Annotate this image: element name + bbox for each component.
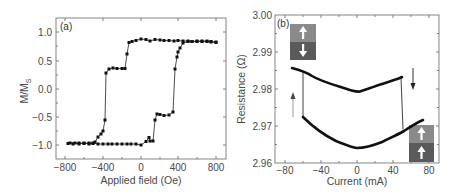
- panel-a-y-axis-title: M/MS: [18, 78, 32, 103]
- panel-b-x-axis-title: Current (mA): [327, 175, 388, 187]
- panel-a-y-ticks: [56, 32, 226, 145]
- panel-a-x-axis-title: Applied field (Oe): [100, 174, 181, 186]
- panel-b-ytick-label: 2.99: [253, 47, 273, 58]
- hysteresis-descending-line: [70, 39, 216, 143]
- panel-a-ytick-label: −1.0: [32, 140, 52, 151]
- panel-b-ytick-label: 2.98: [253, 84, 273, 95]
- panel-a-xtick-label: −800: [54, 162, 77, 173]
- panel-b: 3.00 2.99 2.98 2.97 2.96 −80 −40 0 40 80…: [235, 10, 439, 187]
- arrow-up-icon: [291, 92, 296, 117]
- arrow-down-icon: [411, 68, 416, 90]
- panel-b-ytick-label: 2.97: [253, 121, 273, 132]
- panel-b-xtick-label: −80: [277, 165, 294, 176]
- panel-a: 1.0 0.5 0.0 −0.5 −1.0 −800 −400 0 400 80…: [18, 18, 226, 186]
- antiparallel-inset: [290, 24, 316, 60]
- hysteresis-ascending-line: [70, 41, 216, 145]
- panel-b-ytick-label: 3.00: [253, 10, 273, 21]
- panel-b-label: (b): [277, 18, 289, 29]
- panel-b-data: [292, 68, 423, 148]
- panel-a-data: [67, 38, 218, 147]
- figure: 1.0 0.5 0.0 −0.5 −1.0 −800 −400 0 400 80…: [0, 0, 453, 196]
- panel-a-xtick-label: 800: [208, 162, 225, 173]
- panel-a-ytick-label: 0.5: [38, 56, 52, 67]
- svg-text:M/MS: M/MS: [18, 78, 32, 103]
- panel-a-ytick-label: 0.0: [38, 84, 52, 95]
- panel-a-xtick-label: 400: [170, 162, 187, 173]
- panel-b-ytick-label: 2.96: [253, 158, 273, 169]
- panel-b-xtick-label: 40: [387, 165, 399, 176]
- panel-b-xtick-label: 80: [423, 165, 435, 176]
- panel-a-ytick-label: −0.5: [32, 112, 52, 123]
- panel-b-y-axis-title: Resistance (Ω): [235, 54, 247, 124]
- parallel-inset: [409, 125, 434, 162]
- panel-a-ytick-label: 1.0: [38, 27, 52, 38]
- panel-a-xtick-label: 0: [138, 162, 144, 173]
- lower-branch-curve: [303, 117, 423, 148]
- hysteresis-markers: [67, 38, 218, 147]
- panel-a-label: (a): [60, 21, 72, 32]
- switch-transition-right: [401, 78, 403, 129]
- upper-branch-curve: [292, 68, 402, 92]
- panel-a-xtick-label: −400: [92, 162, 115, 173]
